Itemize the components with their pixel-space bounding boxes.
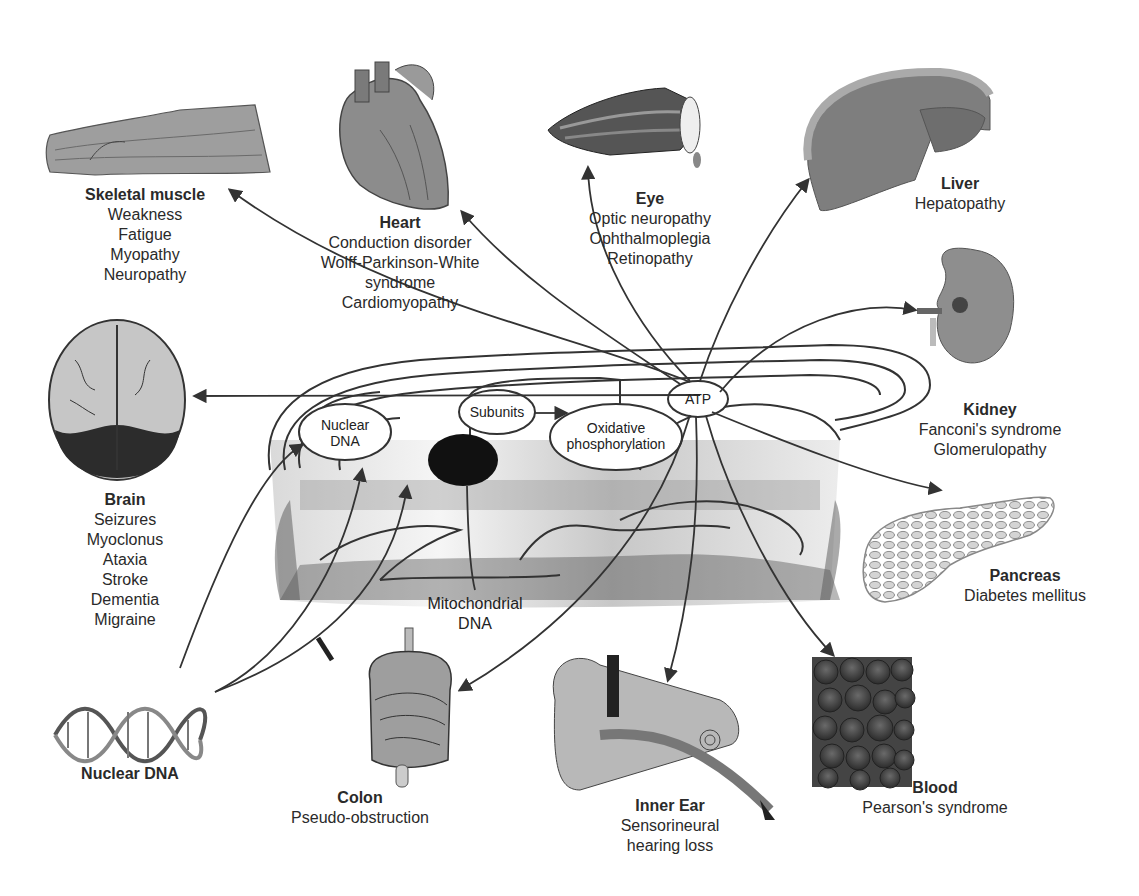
symptom: Myopathy [55, 245, 235, 265]
label-nuclear-dna: Nuclear DNA [60, 764, 200, 784]
oxphos-line2: phosphorylation [552, 436, 680, 452]
symptom: Seizures [65, 510, 185, 530]
symptom: Cardiomyopathy [300, 293, 500, 313]
symptom: Fanconi's syndrome [905, 420, 1075, 440]
mitochondrial-disease-diagram: Nuclear DNA Subunits Oxidative phosphory… [0, 0, 1139, 896]
symptom: Retinopathy [570, 249, 730, 269]
atp-text: ATP [685, 391, 711, 407]
organ-title: Brain [65, 490, 185, 510]
arrow-atp-brain [195, 395, 700, 396]
blood-cells-illustration [812, 657, 915, 790]
nuclear-dna-node-label: Nuclear DNA [300, 417, 390, 449]
label-pancreas: Pancreas Diabetes mellitus [950, 566, 1100, 606]
label-inner-ear: Inner Ear Sensorineural hearing loss [600, 796, 740, 856]
inhibition-bar [318, 638, 332, 660]
mito-dna-label: Mitochondrial DNA [405, 594, 545, 634]
label-colon: Colon Pseudo-obstruction [265, 788, 455, 828]
organ-title: Liver [900, 174, 1020, 194]
atp-node-label: ATP [670, 391, 726, 407]
mito-dna-line2: DNA [405, 614, 545, 634]
symptom: hearing loss [600, 836, 740, 856]
label-kidney: Kidney Fanconi's syndrome Glomerulopathy [905, 400, 1075, 460]
symptom: Neuropathy [55, 265, 235, 285]
label-blood: Blood Pearson's syndrome [845, 778, 1025, 818]
label-heart: Heart Conduction disorder Wolff-Parkinso… [300, 213, 500, 313]
symptom: Myoclonus [65, 530, 185, 550]
mito-dna-line1: Mitochondrial [405, 594, 545, 614]
organ-title: Kidney [905, 400, 1075, 420]
symptom: Sensorineural [600, 816, 740, 836]
organ-title: Eye [570, 189, 730, 209]
organ-title: Colon [265, 788, 455, 808]
organ-title: Inner Ear [600, 796, 740, 816]
symptom: Ophthalmoplegia [570, 229, 730, 249]
label-skeletal-muscle: Skeletal muscle Weakness Fatigue Myopath… [55, 185, 235, 285]
symptom: syndrome [300, 273, 500, 293]
symptom: Conduction disorder [300, 233, 500, 253]
symptom: Hepatopathy [900, 194, 1020, 214]
symptom: Weakness [55, 205, 235, 225]
label-eye: Eye Optic neuropathy Ophthalmoplegia Ret… [570, 189, 730, 269]
kidney-illustration [917, 248, 1014, 363]
symptom: Diabetes mellitus [950, 586, 1100, 606]
organ-title: Skeletal muscle [55, 185, 235, 205]
symptom: Ataxia [65, 550, 185, 570]
symptom: Stroke [65, 570, 185, 590]
label-brain: Brain Seizures Myoclonus Ataxia Stroke D… [65, 490, 185, 630]
dna-helix-illustration [55, 709, 205, 762]
symptom: Optic neuropathy [570, 209, 730, 229]
eye-illustration [548, 88, 701, 168]
symptom: Fatigue [55, 225, 235, 245]
organ-title: Nuclear DNA [60, 764, 200, 784]
symptom: Glomerulopathy [905, 440, 1075, 460]
colon-illustration [369, 628, 451, 787]
skeletal-muscle-illustration [46, 105, 270, 175]
nuclear-dna-text: Nuclear DNA [315, 417, 375, 449]
brain-illustration [49, 320, 185, 480]
oxphos-line1: Oxidative [552, 420, 680, 436]
mitochondrion-illustration [269, 345, 930, 608]
symptom: Pearson's syndrome [845, 798, 1025, 818]
symptom: Dementia [65, 590, 185, 610]
subunits-node-label: Subunits [459, 404, 535, 420]
symptom: Migraine [65, 610, 185, 630]
symptom: Pseudo-obstruction [265, 808, 455, 828]
label-liver: Liver Hepatopathy [900, 174, 1020, 214]
heart-illustration [340, 62, 448, 209]
organ-title: Pancreas [950, 566, 1100, 586]
subunits-text: Subunits [470, 404, 524, 420]
oxphos-node-label: Oxidative phosphorylation [552, 420, 680, 452]
symptom: Wolff-Parkinson-White [300, 253, 500, 273]
organ-title: Blood [845, 778, 1025, 798]
organ-title: Heart [300, 213, 500, 233]
